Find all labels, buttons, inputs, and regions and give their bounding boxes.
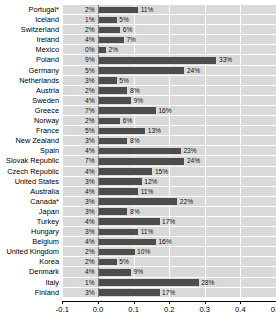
bar bbox=[99, 138, 127, 145]
gridline bbox=[240, 288, 241, 297]
chart-row: Poland9%33% bbox=[0, 55, 276, 65]
left-value-label: 4% bbox=[85, 217, 97, 227]
bar bbox=[99, 249, 135, 256]
gridline bbox=[62, 288, 63, 297]
x-tick-label: 0.5 bbox=[271, 305, 276, 314]
left-value-label: 7% bbox=[85, 156, 97, 166]
gridline bbox=[240, 86, 241, 95]
bar-value-label: 24% bbox=[184, 66, 200, 76]
bar-value-label: 23% bbox=[181, 146, 197, 156]
left-value-label: 4% bbox=[85, 35, 97, 45]
gridline bbox=[62, 247, 63, 256]
chart-row: Australia4%11% bbox=[0, 187, 276, 197]
bar bbox=[99, 208, 127, 215]
gridline bbox=[169, 116, 170, 125]
gridline bbox=[205, 207, 206, 216]
bar bbox=[99, 259, 117, 266]
bar bbox=[99, 118, 120, 125]
bar bbox=[99, 178, 142, 185]
gridline bbox=[62, 5, 63, 14]
category-label: Belgium bbox=[0, 237, 62, 247]
chart-row: United Kingdom2%10% bbox=[0, 247, 276, 257]
gridline bbox=[169, 177, 170, 186]
chart-row: Greece7%16% bbox=[0, 106, 276, 116]
gridline bbox=[205, 217, 206, 226]
gridline bbox=[240, 278, 241, 287]
bar-value-label: 15% bbox=[152, 167, 168, 177]
category-label: Sweden bbox=[0, 96, 62, 106]
plot-band: 3%22% bbox=[62, 197, 276, 207]
gridline bbox=[169, 167, 170, 176]
bar-value-label: 7% bbox=[124, 35, 136, 45]
category-label: Norway bbox=[0, 116, 62, 126]
category-label: Portugal* bbox=[0, 5, 62, 15]
category-label: Ireland bbox=[0, 35, 62, 45]
category-label: Slovak Republic bbox=[0, 156, 62, 166]
chart-row: Korea2%5% bbox=[0, 257, 276, 267]
gridline bbox=[62, 25, 63, 34]
gridline bbox=[134, 45, 135, 54]
bar bbox=[99, 168, 152, 175]
gridline bbox=[205, 15, 206, 24]
bar-chart: Portugal*2%11%Iceland1%5%Switzerland2%6%… bbox=[0, 0, 276, 326]
x-tick-mark bbox=[134, 301, 135, 304]
gridline bbox=[205, 86, 206, 95]
gridline bbox=[62, 96, 63, 105]
category-label: Turkey bbox=[0, 217, 62, 227]
chart-rows: Portugal*2%11%Iceland1%5%Switzerland2%6%… bbox=[0, 5, 276, 298]
gridline bbox=[205, 177, 206, 186]
bar-value-label: 6% bbox=[120, 25, 132, 35]
gridline bbox=[62, 217, 63, 226]
bar-value-label: 22% bbox=[177, 197, 193, 207]
gridline bbox=[169, 5, 170, 14]
x-tick-label: 0.0 bbox=[93, 305, 104, 314]
gridline bbox=[240, 267, 241, 276]
gridline bbox=[205, 106, 206, 115]
gridline bbox=[205, 25, 206, 34]
gridline bbox=[240, 76, 241, 85]
plot-band: 3%12% bbox=[62, 177, 276, 187]
bar-value-label: 5% bbox=[117, 257, 129, 267]
gridline bbox=[205, 66, 206, 75]
plot-band: 4%23% bbox=[62, 146, 276, 156]
gridline bbox=[240, 5, 241, 14]
left-value-label: 5% bbox=[85, 126, 97, 136]
plot-band: 7%24% bbox=[62, 156, 276, 166]
category-label: Mexico bbox=[0, 45, 62, 55]
bar-value-label: 24% bbox=[184, 156, 200, 166]
gridline bbox=[240, 167, 241, 176]
gridline bbox=[205, 156, 206, 165]
gridline bbox=[134, 25, 135, 34]
bar bbox=[99, 107, 156, 114]
gridline bbox=[169, 207, 170, 216]
gridline bbox=[62, 146, 63, 155]
bar bbox=[99, 47, 106, 54]
gridline bbox=[205, 35, 206, 44]
left-value-label: 2% bbox=[85, 86, 97, 96]
bar bbox=[99, 229, 138, 236]
chart-row: Switzerland2%6% bbox=[0, 25, 276, 35]
plot-band: 5%13% bbox=[62, 126, 276, 136]
plot-band: 2%6% bbox=[62, 116, 276, 126]
gridline bbox=[240, 66, 241, 75]
chart-row: United States3%12% bbox=[0, 177, 276, 187]
plot-band: 5%24% bbox=[62, 66, 276, 76]
plot-band: 4%16% bbox=[62, 237, 276, 247]
category-label: Italy bbox=[0, 278, 62, 288]
gridline bbox=[240, 247, 241, 256]
plot-band: 2%5% bbox=[62, 257, 276, 267]
gridline bbox=[62, 35, 63, 44]
bar-value-label: 12% bbox=[142, 177, 158, 187]
category-label: Finland bbox=[0, 288, 62, 298]
gridline bbox=[169, 35, 170, 44]
gridline bbox=[205, 267, 206, 276]
bar bbox=[99, 269, 131, 276]
x-tick-label: 0.2 bbox=[164, 305, 175, 314]
bar bbox=[99, 27, 120, 34]
gridline bbox=[169, 76, 170, 85]
gridline bbox=[169, 45, 170, 54]
bar bbox=[99, 289, 160, 296]
x-tick-mark bbox=[62, 301, 63, 304]
gridline bbox=[169, 227, 170, 236]
category-label: Switzerland bbox=[0, 25, 62, 35]
